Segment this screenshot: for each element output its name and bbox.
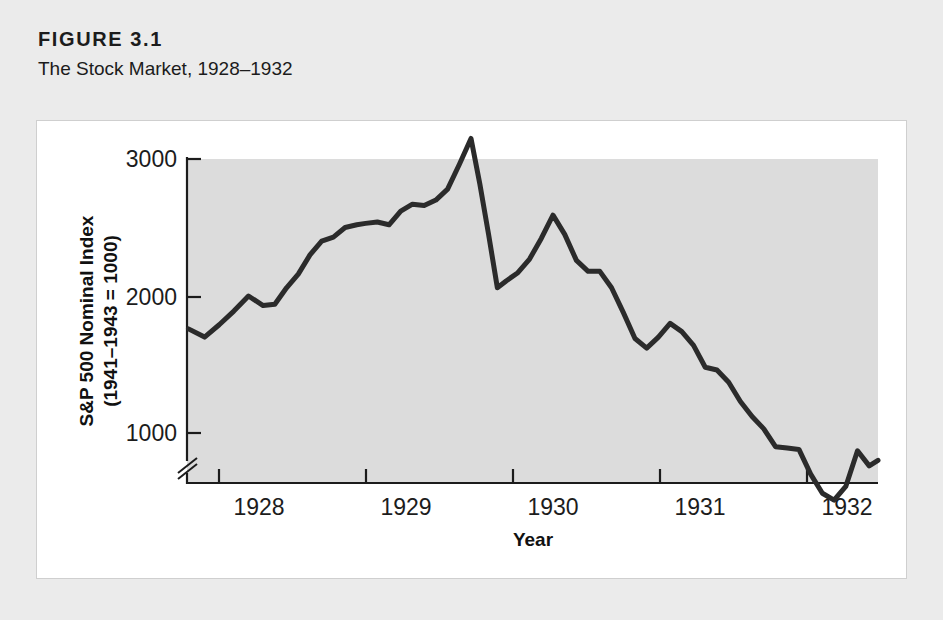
y-tick-label-3000: 3000 (126, 146, 177, 172)
x-tick-label-1931: 1931 (674, 494, 725, 520)
figure-root: FIGURE 3.1 The Stock Market, 1928–1932 (0, 0, 943, 620)
figure-caption: FIGURE 3.1 The Stock Market, 1928–1932 (38, 26, 638, 82)
x-tick-label-1929: 1929 (380, 494, 431, 520)
chart-panel: 3000 2000 1000 1928 1929 1930 1931 1932 … (36, 120, 907, 579)
figure-title: The Stock Market, 1928–1932 (38, 55, 638, 82)
x-tick-label-1928: 1928 (233, 494, 284, 520)
y-tick-label-1000: 1000 (126, 420, 177, 446)
y-tick-label-2000: 2000 (126, 284, 177, 310)
x-axis-title: Year (513, 529, 554, 550)
figure-number: FIGURE 3.1 (38, 26, 638, 52)
plot-background (187, 159, 878, 483)
line-chart: 3000 2000 1000 1928 1929 1930 1931 1932 … (37, 121, 906, 578)
y-axis-title-line2: (1941–1943 = 1000) (100, 235, 121, 407)
x-tick-label-1930: 1930 (527, 494, 578, 520)
y-axis-title-line1: S&P 500 Nominal Index (76, 215, 97, 426)
